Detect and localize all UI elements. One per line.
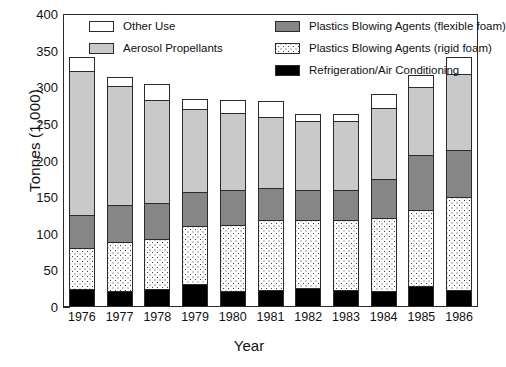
bar-segment[interactable] <box>295 220 321 289</box>
bar-segment[interactable] <box>446 74 472 151</box>
bar-segment[interactable] <box>371 291 397 307</box>
bar-1985[interactable] <box>408 76 434 307</box>
bar-segment[interactable] <box>446 150 472 198</box>
bar-segment[interactable] <box>258 117 284 189</box>
bar-segment[interactable] <box>107 77 133 87</box>
bar-segment[interactable] <box>220 190 246 225</box>
bar-segment[interactable] <box>408 210 434 287</box>
bar-segment[interactable] <box>408 155 434 211</box>
legend-swatch-aerosol-icon <box>89 43 114 54</box>
bar-segment[interactable] <box>107 242 133 293</box>
legend-item-rigid[interactable]: Plastics Blowing Agents (rigid foam) <box>275 42 492 54</box>
legend-item-other[interactable]: Other Use <box>89 20 175 32</box>
bar-segment[interactable] <box>408 87 434 156</box>
bar-segment[interactable] <box>446 290 472 307</box>
bar-segment[interactable] <box>258 101 284 118</box>
bar-segment[interactable] <box>295 190 321 221</box>
bar-segment[interactable] <box>295 114 321 122</box>
legend-label: Other Use <box>123 20 175 32</box>
bar-segment[interactable] <box>69 248 95 290</box>
bar-segment[interactable] <box>220 113 246 191</box>
bar-segment[interactable] <box>144 203 170 241</box>
y-tick-label: 200 <box>18 153 58 168</box>
y-tick-label: 350 <box>18 43 58 58</box>
bar-1979[interactable] <box>182 100 208 307</box>
bar-segment[interactable] <box>371 94 397 108</box>
bar-segment[interactable] <box>144 289 170 307</box>
y-axis-tick-labels: 050100150200250300350400 <box>16 14 58 307</box>
bar-segment[interactable] <box>220 225 246 293</box>
bar-segment[interactable] <box>258 290 284 307</box>
bar-1977[interactable] <box>107 78 133 307</box>
bar-1984[interactable] <box>371 95 397 307</box>
y-tick-label: 300 <box>18 80 58 95</box>
bar-segment[interactable] <box>182 284 208 307</box>
bar-segment[interactable] <box>144 100 170 204</box>
bar-1983[interactable] <box>333 115 359 307</box>
bar-segment[interactable] <box>408 75 434 88</box>
bar-segment[interactable] <box>182 99 208 110</box>
x-axis-title: Year <box>0 337 498 354</box>
bar-segment[interactable] <box>69 57 95 72</box>
bar-segment[interactable] <box>182 226 208 285</box>
bar-segment[interactable] <box>446 197 472 291</box>
bar-1978[interactable] <box>144 85 170 307</box>
y-tick-label: 250 <box>18 116 58 131</box>
y-tick-label: 150 <box>18 190 58 205</box>
bar-segment[interactable] <box>371 218 397 292</box>
bar-segment[interactable] <box>295 288 321 307</box>
bar-segment[interactable] <box>258 220 284 291</box>
y-tick-label: 0 <box>18 300 58 315</box>
legend-item-refrig[interactable]: Refrigeration/Air Conditioning <box>275 64 459 76</box>
bar-segment[interactable] <box>182 192 208 227</box>
x-axis-tick-labels: 1976197719781979198019811982198319841985… <box>63 310 478 330</box>
bar-1976[interactable] <box>69 58 95 307</box>
bar-segment[interactable] <box>144 239 170 290</box>
legend-swatch-flex-icon <box>275 21 300 32</box>
bar-segment[interactable] <box>371 179 397 220</box>
bar-segment[interactable] <box>408 286 434 307</box>
bar-segment[interactable] <box>107 86 133 206</box>
y-tick-label: 100 <box>18 226 58 241</box>
bar-1986[interactable] <box>446 58 472 307</box>
legend-label: Plastics Blowing Agents (rigid foam) <box>309 42 492 54</box>
bar-segment[interactable] <box>295 121 321 191</box>
legend-label: Plastics Blowing Agents (flexible foam) <box>309 20 506 32</box>
bar-series-group <box>63 14 478 307</box>
bar-segment[interactable] <box>333 121 359 191</box>
bar-segment[interactable] <box>333 190 359 221</box>
legend-swatch-rigid-icon <box>275 43 300 54</box>
bar-segment[interactable] <box>69 71 95 216</box>
bar-segment[interactable] <box>258 188 284 221</box>
bar-segment[interactable] <box>333 290 359 307</box>
y-tick-label: 400 <box>18 7 58 22</box>
bar-segment[interactable] <box>371 108 397 180</box>
x-tick-label: 1986 <box>436 310 482 324</box>
bar-1980[interactable] <box>220 101 246 307</box>
bar-segment[interactable] <box>69 215 95 249</box>
bar-segment[interactable] <box>144 84 170 101</box>
bar-segment[interactable] <box>107 205 133 243</box>
bar-segment[interactable] <box>220 291 246 307</box>
bar-segment[interactable] <box>107 291 133 307</box>
y-tick-label: 50 <box>18 263 58 278</box>
bar-segment[interactable] <box>333 220 359 291</box>
bar-segment[interactable] <box>333 114 359 122</box>
legend-swatch-refrig-icon <box>275 65 300 76</box>
bar-segment[interactable] <box>182 109 208 193</box>
bar-segment[interactable] <box>69 289 95 307</box>
bar-1982[interactable] <box>295 115 321 307</box>
legend-swatch-other-icon <box>89 21 114 32</box>
legend-label: Refrigeration/Air Conditioning <box>309 64 459 76</box>
legend-label: Aerosol Propellants <box>123 42 223 54</box>
bar-1981[interactable] <box>258 102 284 307</box>
legend-item-flex[interactable]: Plastics Blowing Agents (flexible foam) <box>275 20 506 32</box>
bar-segment[interactable] <box>220 100 246 114</box>
y-tick-mark <box>63 307 70 308</box>
legend-item-aerosol[interactable]: Aerosol Propellants <box>89 42 223 54</box>
